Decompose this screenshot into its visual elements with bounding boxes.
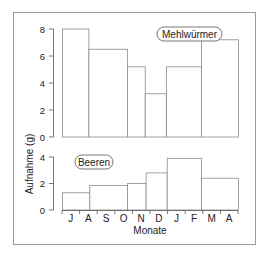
y-tick-label: 6: [40, 51, 45, 62]
bar: [145, 94, 166, 137]
x-tick-label: S: [103, 213, 110, 224]
bar: [63, 193, 90, 210]
bar: [128, 67, 146, 137]
x-tick-label: A: [226, 213, 233, 224]
chart-canvas: 02468 024 JASONDJFMA Mehlwürmer Beeren A…: [0, 0, 272, 255]
bar: [89, 49, 128, 137]
bar: [63, 29, 89, 137]
x-tick-label: F: [191, 213, 197, 224]
x-tick-label: M: [207, 213, 215, 224]
y-tick-label: 4: [40, 78, 45, 89]
x-tick-label: J: [68, 213, 73, 224]
x-tick-label: J: [174, 213, 179, 224]
bar: [128, 184, 146, 211]
y-axis-label: Aufnahme (g): [24, 134, 35, 195]
bar: [90, 185, 128, 210]
bar: [202, 40, 239, 137]
x-axis-label: Monate: [133, 225, 167, 236]
upper-legend: Mehlwürmer: [157, 27, 222, 41]
y-tick-label: 2: [40, 178, 45, 189]
x-tick-label: D: [155, 213, 162, 224]
x-tick-label: N: [138, 213, 145, 224]
bar: [167, 158, 201, 210]
x-tick-label: O: [120, 213, 128, 224]
y-tick-label: 0: [40, 205, 45, 216]
y-tick-label: 8: [40, 24, 45, 35]
bar: [202, 178, 239, 210]
y-tick-label: 4: [40, 152, 45, 163]
lower-legend-label: Beeren: [78, 157, 110, 168]
x-tick-label: A: [85, 213, 92, 224]
y-tick-label: 2: [40, 105, 45, 116]
bar: [146, 173, 167, 210]
upper-legend-label: Mehlwürmer: [162, 29, 218, 40]
lower-legend: Beeren: [75, 155, 113, 169]
bar: [166, 67, 201, 137]
y-tick-label: 0: [40, 132, 45, 143]
